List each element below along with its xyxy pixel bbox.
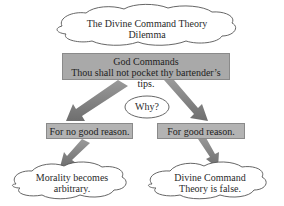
- why-text: Why?: [135, 101, 159, 112]
- outcome-right-line-2: Theory is false.: [162, 183, 258, 194]
- outcome-cloud-left: Morality becomes arbitrary.: [24, 172, 120, 194]
- branch-label-left: For no good reason.: [50, 126, 130, 137]
- title-line-2: Dilemma: [72, 29, 222, 40]
- title-line-1: The Divine Command Theory: [72, 18, 222, 29]
- branch-box-no-good-reason: For no good reason.: [46, 123, 133, 139]
- command-heading: God Commands: [63, 56, 229, 67]
- why-oval: Why?: [125, 101, 169, 112]
- outcome-left-line-2: arbitrary.: [24, 183, 120, 194]
- command-text: Thou shall not pocket thy bartender’s ti…: [63, 67, 229, 89]
- title-cloud: The Divine Command Theory Dilemma: [72, 18, 222, 40]
- outcome-right-line-1: Divine Command: [162, 172, 258, 183]
- command-box: God Commands Thou shall not pocket thy b…: [62, 53, 230, 80]
- outcome-left-line-1: Morality becomes: [24, 172, 120, 183]
- outcome-cloud-right: Divine Command Theory is false.: [162, 172, 258, 194]
- branch-label-right: For good reason.: [167, 126, 235, 137]
- branch-box-good-reason: For good reason.: [157, 123, 245, 139]
